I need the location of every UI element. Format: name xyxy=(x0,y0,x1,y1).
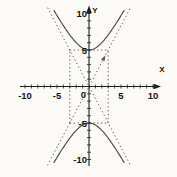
y-tick-label: -10 xyxy=(73,154,87,165)
x-tick-label: 10 xyxy=(148,90,159,101)
x-tick-label: -5 xyxy=(53,90,62,101)
x-tick-label: -10 xyxy=(18,90,32,101)
y-tick-label: 5 xyxy=(82,45,88,56)
y-tick-label: 10 xyxy=(76,8,87,19)
y-tick-label: -5 xyxy=(79,118,88,129)
y-axis-letter: Y xyxy=(92,6,98,15)
hyperbola-figure: -10-5510105-5-100XY xyxy=(0,0,177,177)
x-axis-letter: X xyxy=(159,65,165,74)
plot-svg: -10-5510105-5-100XY xyxy=(0,0,177,177)
x-tick-label: 5 xyxy=(118,90,124,101)
origin-label: 0 xyxy=(81,89,86,100)
